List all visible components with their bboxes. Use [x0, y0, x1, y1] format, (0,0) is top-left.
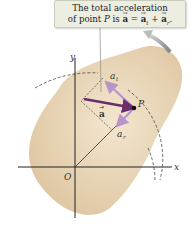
svg-text:a: a — [99, 109, 105, 119]
callout-text: + — [149, 14, 162, 24]
point-p-label: P — [137, 99, 145, 109]
origin-label: O — [64, 172, 72, 182]
callout-text: is — [110, 14, 123, 24]
callout-text: . — [169, 14, 172, 24]
rigid-body — [29, 46, 182, 215]
vector-a-r: a — [161, 14, 167, 24]
callout-text: = — [128, 14, 141, 24]
rigid-body-figure: y x O P a → a t a r — [0, 0, 191, 228]
acceleration-callout: The total acceleration of point P is a =… — [54, 0, 186, 28]
vector-a: a — [122, 14, 128, 24]
callout-text: of point — [68, 14, 104, 24]
y-axis-label: y — [69, 52, 76, 62]
svg-text:r: r — [123, 134, 126, 140]
callout-line-2: of point P is a = at + ar. — [55, 14, 185, 29]
svg-text:a: a — [117, 129, 122, 139]
point-p — [132, 106, 137, 111]
svg-text:→: → — [99, 103, 104, 110]
x-axis-label: x — [174, 162, 179, 172]
svg-text:a: a — [110, 71, 115, 81]
vector-a-t: a — [141, 14, 147, 24]
